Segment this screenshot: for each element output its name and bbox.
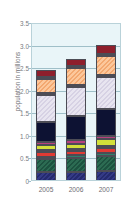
y-axis-tick-mark (28, 46, 31, 47)
bar-segment[interactable] (96, 77, 116, 109)
bar-2005[interactable] (36, 23, 56, 181)
y-axis-tick-label: 2.0 (9, 87, 29, 94)
x-axis-tick-label: 2006 (69, 186, 84, 193)
y-axis-tick-mark (28, 23, 31, 24)
bar-segment[interactable] (96, 148, 116, 153)
bar-segment[interactable] (36, 159, 56, 172)
bar-segment[interactable] (36, 142, 56, 145)
bar-segment[interactable] (36, 122, 56, 142)
x-axis-tick-label: 2005 (39, 186, 54, 193)
bar-segment[interactable] (36, 95, 56, 122)
bar-segment[interactable] (36, 172, 56, 181)
y-axis-tick-mark (28, 91, 31, 92)
y-axis-tick-label: 2.5 (9, 65, 29, 72)
bar-2007[interactable] (96, 23, 116, 181)
y-axis-tick-mark (28, 68, 31, 69)
bar-segment[interactable] (66, 155, 86, 157)
y-axis-tick-mark (28, 181, 31, 182)
bar-segment[interactable] (36, 152, 56, 157)
bar-2006[interactable] (66, 23, 86, 181)
bar-segment[interactable] (66, 172, 86, 181)
bar-segment[interactable] (66, 144, 86, 149)
bar-segment[interactable] (96, 156, 116, 171)
bar-segment[interactable] (36, 145, 56, 150)
bar-segment[interactable] (66, 68, 86, 85)
bar-segment[interactable] (96, 45, 116, 54)
bar-segment[interactable] (66, 151, 86, 156)
y-axis-tick-label: 3.0 (9, 42, 29, 49)
bar-segment[interactable] (66, 66, 86, 68)
bar-segment[interactable] (96, 54, 116, 56)
bar-segment[interactable] (66, 59, 86, 67)
bar-segment[interactable] (96, 139, 116, 145)
bar-segment[interactable] (66, 149, 86, 151)
x-axis-tick-label: 2007 (99, 186, 114, 193)
bar-segment[interactable] (66, 116, 86, 141)
y-axis-tick-label: 1.5 (9, 110, 29, 117)
bar-segment[interactable] (66, 85, 86, 87)
bar-segment[interactable] (36, 70, 56, 77)
y-axis-tick-mark (28, 136, 31, 137)
bar-segment[interactable] (36, 150, 56, 152)
y-axis-tick-labels: 00.51.01.52.02.53.03.5 (9, 0, 29, 205)
bar-segment[interactable] (96, 146, 116, 148)
y-axis-tick-label: 3.5 (9, 20, 29, 27)
bar-segment[interactable] (96, 153, 116, 156)
bar-segment[interactable] (36, 157, 56, 159)
y-axis-tick-mark (28, 158, 31, 159)
y-axis-tick-label: 0 (9, 178, 29, 185)
bar-segment[interactable] (66, 87, 86, 115)
bar-segment[interactable] (96, 136, 116, 140)
bar-segment[interactable] (96, 171, 116, 181)
bar-segment[interactable] (36, 79, 56, 93)
plot-area (31, 23, 121, 181)
y-axis-tick-label: 0.5 (9, 155, 29, 162)
bar-segment[interactable] (36, 93, 56, 95)
bar-segment[interactable] (96, 75, 116, 77)
bar-segment[interactable] (66, 140, 86, 143)
bar-segment[interactable] (96, 56, 116, 75)
bar-segment[interactable] (36, 77, 56, 79)
y-axis-tick-label: 1.0 (9, 132, 29, 139)
bar-segment[interactable] (66, 158, 86, 172)
stacked-bar-chart: population in millions 00.51.01.52.02.53… (0, 0, 125, 205)
bar-segment[interactable] (96, 109, 116, 136)
y-axis-tick-mark (28, 113, 31, 114)
